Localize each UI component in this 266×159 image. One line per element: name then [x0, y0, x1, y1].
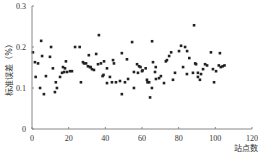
- data-point: [66, 71, 69, 74]
- data-point: [219, 52, 222, 55]
- y-tick-label: 0: [22, 125, 26, 134]
- data-point: [163, 82, 166, 85]
- data-point: [182, 66, 185, 69]
- data-point: [109, 76, 112, 79]
- data-point: [221, 65, 224, 68]
- data-point: [41, 55, 44, 58]
- data-point: [106, 67, 109, 70]
- data-point: [168, 55, 171, 58]
- data-point: [212, 68, 215, 71]
- data-point: [155, 78, 158, 81]
- x-tick-label: 40: [101, 134, 109, 143]
- plot-area: [32, 24, 226, 99]
- y-tick-label: 0.2: [16, 43, 26, 52]
- data-point: [178, 50, 181, 53]
- data-point: [174, 72, 177, 75]
- data-point: [80, 81, 83, 84]
- data-point: [43, 93, 46, 96]
- data-point: [124, 81, 127, 84]
- x-tick-label: 60: [138, 134, 146, 143]
- x-tick-label: 20: [65, 134, 73, 143]
- x-tick-label: 0: [30, 134, 34, 143]
- data-point: [52, 67, 55, 70]
- data-point: [78, 46, 81, 49]
- data-point: [202, 68, 205, 71]
- data-point: [119, 80, 122, 83]
- x-tick-label: 120: [246, 134, 258, 143]
- data-point: [121, 93, 124, 96]
- data-point: [45, 75, 48, 78]
- data-point: [146, 79, 149, 82]
- data-point: [88, 54, 91, 57]
- x-tick-label: 100: [209, 134, 221, 143]
- data-point: [154, 66, 157, 69]
- data-point: [95, 53, 98, 56]
- data-point: [199, 79, 202, 82]
- data-point: [180, 44, 183, 47]
- data-point: [206, 64, 209, 67]
- data-point: [152, 61, 155, 64]
- data-point: [85, 62, 88, 65]
- data-point: [197, 72, 200, 75]
- data-point: [37, 62, 40, 65]
- data-point: [141, 69, 144, 72]
- data-point: [193, 24, 196, 27]
- data-point: [195, 63, 198, 66]
- data-point: [184, 46, 187, 49]
- data-point: [210, 51, 213, 54]
- data-point: [151, 40, 154, 43]
- data-point: [74, 46, 77, 49]
- data-point: [215, 70, 218, 73]
- data-point: [172, 79, 175, 82]
- data-point: [34, 76, 37, 79]
- data-point: [151, 87, 154, 90]
- data-point: [133, 71, 136, 74]
- data-point: [127, 78, 130, 81]
- data-point: [39, 87, 42, 90]
- data-point: [34, 61, 37, 64]
- data-point: [133, 87, 136, 90]
- y-tick-label: 0.3: [16, 2, 26, 11]
- data-point: [40, 40, 43, 43]
- y-tick-label: 0.1: [16, 84, 26, 93]
- data-point: [165, 60, 168, 63]
- data-point: [50, 46, 53, 49]
- data-point: [93, 69, 96, 72]
- data-point: [106, 82, 109, 85]
- scatter-chart: 00.10.20.3 020406080100120 标准误差（%） 站点数: [0, 0, 266, 159]
- data-point: [100, 62, 103, 65]
- y-ticks: 00.10.20.3: [16, 2, 34, 134]
- data-point: [131, 41, 134, 44]
- data-point: [113, 62, 116, 65]
- data-point: [188, 57, 191, 60]
- data-point: [154, 71, 157, 74]
- data-point: [63, 71, 66, 74]
- data-point: [112, 59, 115, 62]
- data-point: [186, 73, 189, 76]
- data-point: [62, 66, 65, 69]
- data-point: [65, 60, 68, 63]
- data-point: [170, 51, 173, 54]
- data-point: [111, 81, 114, 84]
- data-point: [55, 81, 58, 84]
- data-point: [126, 58, 129, 61]
- data-point: [197, 76, 200, 79]
- data-point: [200, 73, 203, 76]
- x-axis-title: 站点数: [234, 143, 258, 153]
- x-tick-label: 80: [175, 134, 183, 143]
- data-point: [149, 96, 152, 99]
- data-point: [102, 74, 105, 77]
- data-point: [139, 66, 142, 69]
- data-point: [144, 67, 147, 70]
- data-point: [49, 56, 52, 59]
- data-point: [115, 81, 118, 84]
- data-point: [192, 72, 195, 75]
- data-point: [71, 70, 74, 73]
- data-point: [98, 34, 101, 37]
- data-point: [137, 72, 140, 75]
- data-point: [97, 63, 100, 66]
- data-point: [121, 52, 124, 55]
- data-point: [213, 81, 216, 84]
- y-axis-title: 标准误差（%）: [4, 40, 14, 96]
- data-point: [160, 75, 163, 78]
